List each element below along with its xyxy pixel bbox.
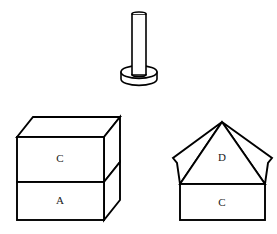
stacked-cube-object [17, 117, 120, 220]
cube-top-face [17, 117, 120, 137]
house-base-label: C [218, 196, 225, 208]
post-top-cap [132, 12, 146, 14]
geometric-solids-figure: C A D C [0, 0, 277, 234]
cube-upper-block-label: C [56, 152, 63, 164]
post-shaft [132, 14, 146, 75]
cube-lower-block-label: A [56, 194, 64, 206]
pyramid-roof-label: D [218, 151, 226, 163]
